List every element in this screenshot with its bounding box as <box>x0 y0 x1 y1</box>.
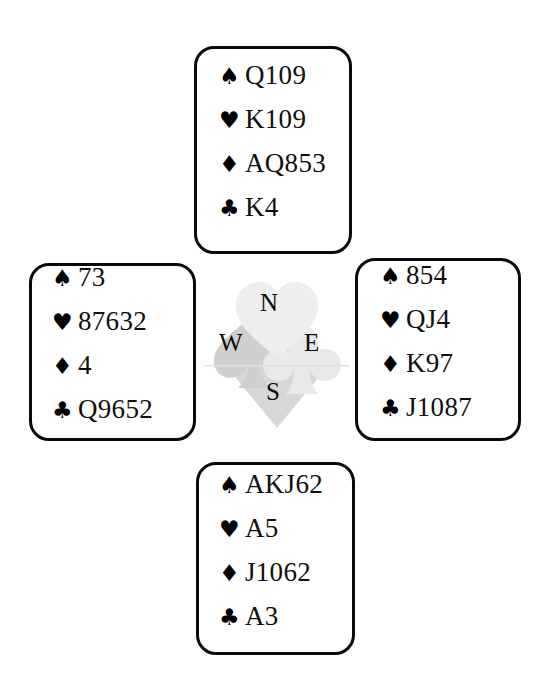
hand-north-clubs-row: ♣ K4 <box>219 194 339 238</box>
hand-west-diamonds-row: ♦ 4 <box>52 352 183 396</box>
hand-east-clubs-row: ♣ J1087 <box>380 394 508 438</box>
compass-west-label: W <box>219 330 243 355</box>
hand-south-clubs-row: ♣ A3 <box>219 603 342 647</box>
hand-north-diamonds: AQ853 <box>245 150 326 177</box>
hand-east-hearts-row: ♥ QJ4 <box>380 306 508 350</box>
hand-west-spades-row: ♠ 73 <box>52 264 183 308</box>
hand-south-hearts: A5 <box>245 515 279 542</box>
hand-south-spades: AKJ62 <box>245 471 323 498</box>
compass-north-label: N <box>260 290 278 315</box>
hand-east-diamonds-row: ♦ K97 <box>380 350 508 394</box>
diamond-icon: ♦ <box>219 153 245 176</box>
heart-icon: ♥ <box>219 518 245 541</box>
hand-west-hearts: 87632 <box>78 308 147 335</box>
hand-north-spades-row: ♠ Q109 <box>219 62 339 106</box>
hand-west-spades: 73 <box>78 264 106 291</box>
club-icon: ♣ <box>219 606 245 629</box>
hand-west-clubs-row: ♣ Q9652 <box>52 396 183 440</box>
spade-icon: ♠ <box>219 65 245 88</box>
club-icon: ♣ <box>52 399 78 422</box>
compass-south-label: S <box>266 379 280 404</box>
hand-box-west: ♠ 73 ♥ 87632 ♦ 4 ♣ Q9652 <box>29 263 196 441</box>
diamond-icon: ♦ <box>52 355 78 378</box>
hand-east-spades-row: ♠ 854 <box>380 262 508 306</box>
hand-south-clubs: A3 <box>245 603 279 630</box>
hand-north-clubs: K4 <box>245 194 279 221</box>
spade-icon: ♠ <box>380 265 406 288</box>
club-icon: ♣ <box>380 397 406 420</box>
hand-box-south: ♠ AKJ62 ♥ A5 ♦ J1062 ♣ A3 <box>196 462 355 655</box>
hand-west-contents: ♠ 73 ♥ 87632 ♦ 4 ♣ Q9652 <box>32 264 193 440</box>
compass-rose: N W E S <box>198 262 356 442</box>
hand-north-hearts: K109 <box>245 106 306 133</box>
hand-west-diamonds: 4 <box>78 352 92 379</box>
hand-south-spades-row: ♠ AKJ62 <box>219 471 342 515</box>
hand-north-spades: Q109 <box>245 62 306 89</box>
hand-north-contents: ♠ Q109 ♥ K109 ♦ AQ853 ♣ K4 <box>197 62 349 238</box>
compass-east-label: E <box>304 330 319 355</box>
spade-icon: ♠ <box>52 267 78 290</box>
hand-east-spades: 854 <box>406 262 447 289</box>
hand-north-diamonds-row: ♦ AQ853 <box>219 150 339 194</box>
spade-icon: ♠ <box>219 474 245 497</box>
hand-south-contents: ♠ AKJ62 ♥ A5 ♦ J1062 ♣ A3 <box>199 471 352 647</box>
bridge-deal-diagram: N W E S ♠ Q109 ♥ K109 ♦ AQ853 ♣ K4 <box>0 0 547 693</box>
hand-west-hearts-row: ♥ 87632 <box>52 308 183 352</box>
diamond-icon: ♦ <box>219 562 245 585</box>
hand-box-north: ♠ Q109 ♥ K109 ♦ AQ853 ♣ K4 <box>194 46 352 254</box>
heart-icon: ♥ <box>380 309 406 332</box>
hand-south-diamonds: J1062 <box>245 559 311 586</box>
club-icon: ♣ <box>219 197 245 220</box>
diamond-icon: ♦ <box>380 353 406 376</box>
heart-icon: ♥ <box>52 311 78 334</box>
hand-east-diamonds: K97 <box>406 350 453 377</box>
hand-east-contents: ♠ 854 ♥ QJ4 ♦ K97 ♣ J1087 <box>358 262 518 438</box>
hand-south-hearts-row: ♥ A5 <box>219 515 342 559</box>
hand-east-hearts: QJ4 <box>406 306 450 333</box>
hand-east-clubs: J1087 <box>406 394 472 421</box>
heart-icon: ♥ <box>219 109 245 132</box>
hand-north-hearts-row: ♥ K109 <box>219 106 339 150</box>
hand-west-clubs: Q9652 <box>78 396 153 423</box>
hand-box-east: ♠ 854 ♥ QJ4 ♦ K97 ♣ J1087 <box>355 258 521 441</box>
hand-south-diamonds-row: ♦ J1062 <box>219 559 342 603</box>
